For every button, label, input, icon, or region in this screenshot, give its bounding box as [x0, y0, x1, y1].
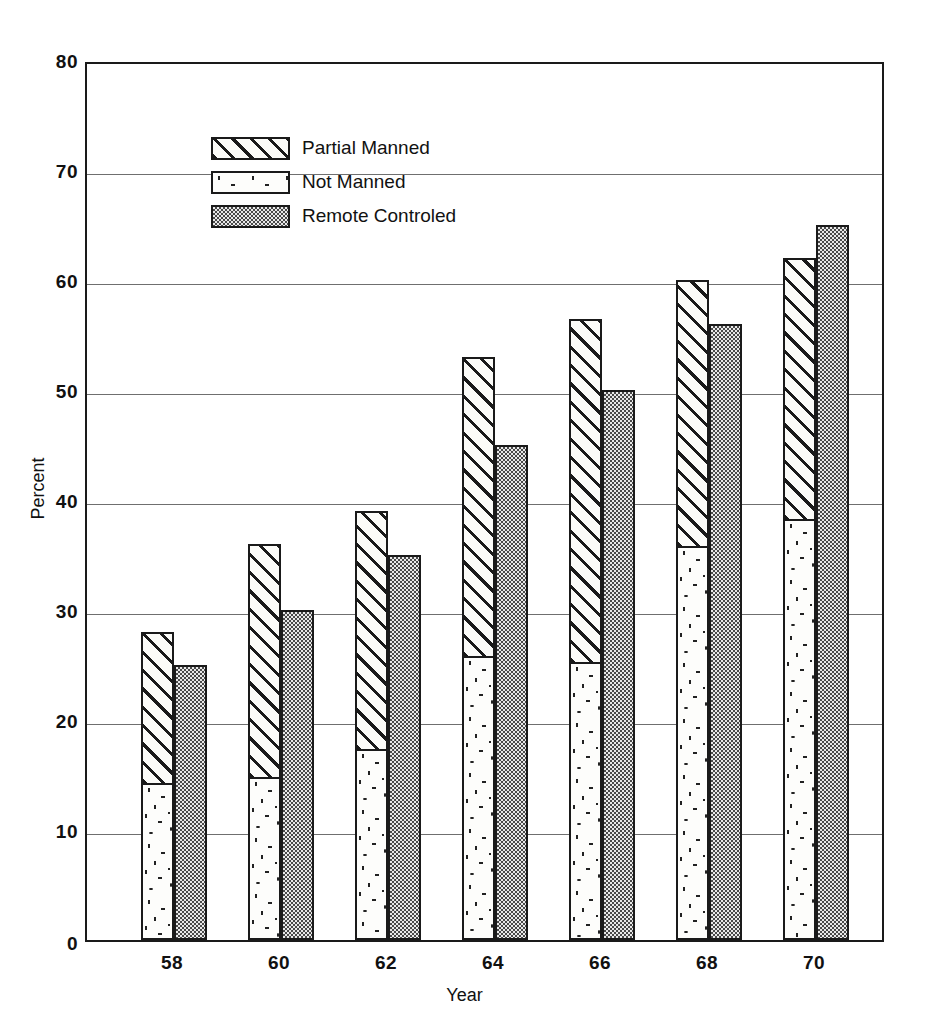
segment-partial-manned-58 — [143, 634, 172, 783]
legend-label-not-manned: Not Manned — [302, 171, 406, 193]
legend-swatch-checker-icon — [211, 205, 290, 228]
segment-not-manned-68 — [678, 546, 707, 938]
segment-not-manned-66 — [571, 662, 600, 938]
remote-bar-66 — [602, 390, 635, 940]
legend-label-remote-controled: Remote Controled — [302, 205, 456, 227]
remote-bar-60 — [281, 610, 314, 940]
remote-bar-68 — [709, 324, 742, 940]
legend-item-partial-manned: Partial Manned — [211, 136, 541, 160]
x-tick-58: 58 — [132, 952, 212, 974]
x-tick-70: 70 — [774, 952, 854, 974]
legend: Partial Manned Not Manned Remote Control… — [211, 136, 541, 238]
y-axis-title: Percent — [28, 429, 49, 549]
gridline-60 — [87, 284, 882, 285]
y-tick-20: 20 — [30, 712, 78, 731]
y-tick-70: 70 — [30, 162, 78, 181]
x-tick-62: 62 — [346, 952, 426, 974]
legend-label-partial-manned: Partial Manned — [302, 137, 430, 159]
remote-bar-58 — [174, 665, 207, 940]
segment-partial-manned-64 — [464, 359, 493, 656]
x-tick-64: 64 — [453, 952, 533, 974]
legend-item-remote-controled: Remote Controled — [211, 204, 541, 228]
segment-partial-manned-70 — [785, 260, 814, 519]
segment-partial-manned-68 — [678, 282, 707, 546]
plot-area: Partial Manned Not Manned Remote Control… — [85, 62, 884, 942]
remote-bar-62 — [388, 555, 421, 940]
stacked-bar-70 — [783, 258, 816, 940]
x-tick-68: 68 — [667, 952, 747, 974]
segment-partial-manned-62 — [357, 513, 386, 749]
legend-item-not-manned: Not Manned — [211, 170, 541, 194]
stacked-bar-62 — [355, 511, 388, 940]
stacked-bar-66 — [569, 319, 602, 940]
y-tick-0: 0 — [30, 934, 78, 953]
stacked-bar-68 — [676, 280, 709, 940]
y-tick-50: 50 — [30, 382, 78, 401]
segment-not-manned-62 — [357, 749, 386, 938]
segment-not-manned-64 — [464, 656, 493, 938]
x-axis-title: Year — [0, 985, 929, 1006]
segment-not-manned-60 — [250, 777, 279, 938]
remote-bar-70 — [816, 225, 849, 940]
x-tick-60: 60 — [239, 952, 319, 974]
stacked-bar-58 — [141, 632, 174, 940]
y-tick-80: 80 — [30, 52, 78, 71]
segment-partial-manned-66 — [571, 321, 600, 662]
segment-partial-manned-60 — [250, 546, 279, 777]
legend-swatch-hatch-icon — [211, 137, 290, 160]
remote-bar-64 — [495, 445, 528, 940]
x-tick-66: 66 — [560, 952, 640, 974]
y-tick-60: 60 — [30, 272, 78, 291]
stacked-bar-60 — [248, 544, 281, 940]
y-tick-10: 10 — [30, 822, 78, 841]
segment-not-manned-70 — [785, 519, 814, 938]
stacked-bar-64 — [462, 357, 495, 940]
y-tick-30: 30 — [30, 602, 78, 621]
legend-swatch-speckle-icon — [211, 171, 290, 194]
segment-not-manned-58 — [143, 783, 172, 938]
bar-chart-figure: 80 70 60 50 40 30 20 10 0 Percent — [0, 0, 929, 1033]
